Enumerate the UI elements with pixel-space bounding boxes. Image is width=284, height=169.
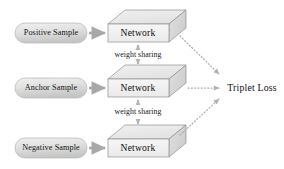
sample-pill-anchor[interactable] bbox=[15, 78, 87, 98]
cuboid-icon-anchor[interactable] bbox=[108, 65, 186, 97]
sample-pill-positive[interactable] bbox=[15, 23, 87, 43]
cuboid-icon-positive[interactable] bbox=[108, 10, 186, 42]
cuboid-icon-negative[interactable] bbox=[108, 125, 186, 157]
sample-pill-negative[interactable] bbox=[15, 138, 87, 158]
diagram-canvas: Positive Sample Anchor Sample Negative S… bbox=[0, 0, 284, 169]
diagram-svg bbox=[0, 0, 284, 169]
dotted-arrow-icon-negative bbox=[180, 99, 219, 135]
